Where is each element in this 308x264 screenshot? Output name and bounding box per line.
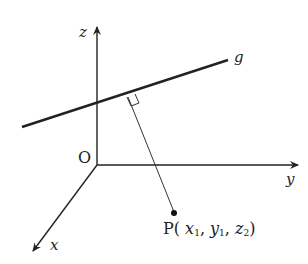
right-angle-marker — [127, 94, 139, 106]
y-axis-label: y — [286, 172, 294, 187]
coord-y: y — [210, 219, 219, 238]
point-p-dot — [171, 210, 177, 216]
point-name: P — [163, 219, 174, 238]
coord-x: x — [185, 219, 194, 238]
perpendicular-segment — [128, 97, 174, 212]
paren-close: ) — [249, 219, 255, 238]
separator: , — [225, 219, 230, 238]
x-axis-label: x — [50, 238, 58, 253]
x-axis — [33, 165, 97, 251]
point-p-label: P( x1, y1, z2) — [163, 221, 255, 238]
z-axis-label: z — [79, 25, 87, 40]
origin-label: O — [78, 150, 91, 166]
line-g — [22, 60, 228, 127]
separator: , — [200, 219, 205, 238]
line-g-label: g — [234, 50, 244, 65]
paren-open: ( — [174, 219, 180, 238]
diagram-canvas — [0, 0, 308, 264]
